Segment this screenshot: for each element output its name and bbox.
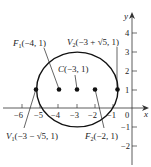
x-tick-label: 0 [125,110,129,120]
y-tick-label: −1 [121,122,130,132]
y-tick-label: 1 [125,85,129,95]
y-tick-label: 3 [125,47,129,57]
x-tick-label: −5 [34,110,43,120]
label-v2: V2(−3 + √5, 1) [67,37,119,48]
y-tick-label: 4 [125,28,130,38]
ellipse-diagram: x y −6 −5 −4 −3 −2 −1 0 4 3 2 1 −1 −2 [0,0,151,167]
vertex-v1-dot [34,87,39,92]
x-axis-label: x [143,109,148,119]
y-tick-label: 2 [125,66,129,76]
leader-f1 [44,48,59,89]
x-tick-label: −6 [14,110,23,120]
leader-v1 [24,89,36,128]
label-v1: V1(−3 − √5, 1) [6,131,58,142]
vertex-v2-dot [115,87,120,92]
focus-f1-dot [57,87,62,92]
x-tick-label: −1 [107,110,116,120]
x-tick-label: −2 [88,110,97,120]
label-c: C(−3, 1) [58,64,89,74]
y-ticks [132,33,137,146]
focus-f2-dot [93,87,98,92]
leader-c [75,75,77,89]
center-c-dot [75,87,80,92]
y-tick-label: −2 [121,141,130,151]
y-axis-label: y [123,11,128,21]
x-tick-label: −3 [70,110,79,120]
label-f1: F1(−4, 1) [12,38,46,49]
label-f2: F2(−2, 1) [84,131,118,142]
